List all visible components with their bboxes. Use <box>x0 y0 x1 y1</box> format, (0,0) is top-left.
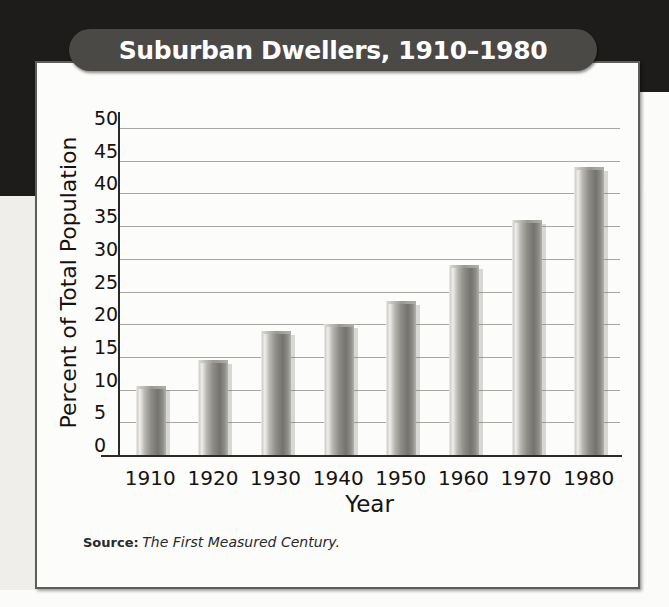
y-tick-label: 40 <box>94 174 116 193</box>
x-tick-label: 1980 <box>556 466 622 490</box>
bar-cap <box>387 301 416 304</box>
x-tick-label: 1960 <box>430 466 496 490</box>
y-tick-label: 10 <box>94 371 116 390</box>
chart-title: Suburban Dwellers, 1910–1980 <box>119 36 548 65</box>
gridline <box>119 128 620 129</box>
x-tick-label: 1950 <box>368 466 434 490</box>
y-axis-line <box>118 112 120 456</box>
source-note: Source: The First Measured Century. <box>83 534 340 550</box>
y-tick-label: 20 <box>94 305 116 324</box>
bar-cap <box>199 360 228 363</box>
source-reference: The First Measured Century. <box>142 534 340 550</box>
y-tick-label: 45 <box>94 142 116 161</box>
page-bottom-margin <box>0 590 669 607</box>
bar-cap <box>137 386 166 389</box>
x-axis-title: Year <box>119 491 620 517</box>
bar <box>386 301 416 455</box>
page-right-margin <box>641 92 669 607</box>
bar <box>449 265 479 455</box>
x-tick-label: 1910 <box>117 466 183 490</box>
bar-cap <box>450 265 479 268</box>
source-label: Source: <box>83 535 139 550</box>
bar-cap <box>575 167 604 170</box>
bar-cap <box>325 324 354 327</box>
bar-cap <box>262 331 291 334</box>
x-tick-label: 1940 <box>305 466 371 490</box>
y-tick-label: 0 <box>94 436 116 455</box>
gridline <box>119 193 620 194</box>
bar <box>198 360 228 455</box>
bar <box>261 331 291 455</box>
bar <box>324 324 354 455</box>
bar-cap <box>513 220 542 223</box>
y-axis-title: Percent of Total Population <box>56 133 81 433</box>
x-axis-line <box>101 455 622 457</box>
x-tick-label: 1930 <box>243 466 309 490</box>
x-tick-label: 1920 <box>180 466 246 490</box>
bar <box>512 220 542 455</box>
bar <box>574 167 604 455</box>
bar <box>136 386 166 455</box>
y-tick-label: 5 <box>94 403 116 422</box>
y-tick-label: 35 <box>94 207 116 226</box>
x-tick-label: 1970 <box>493 466 559 490</box>
y-tick-label: 50 <box>94 109 116 128</box>
y-tick-label: 15 <box>94 338 116 357</box>
chart-title-banner: Suburban Dwellers, 1910–1980 <box>69 29 597 71</box>
y-tick-label: 25 <box>94 273 116 292</box>
page-dark-band-left <box>0 0 40 196</box>
y-tick-label: 30 <box>94 240 116 259</box>
gridline <box>119 161 620 162</box>
